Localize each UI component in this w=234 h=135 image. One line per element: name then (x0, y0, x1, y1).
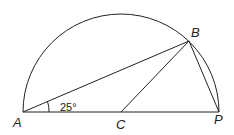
point-label-p: P (214, 112, 223, 127)
angle-label: 25° (60, 101, 77, 113)
point-label-c: C (116, 117, 126, 132)
semicircle-arc (23, 14, 219, 112)
point-label-a: A (12, 115, 22, 130)
segment-ab (23, 41, 189, 112)
geometry-diagram: 25° A C P B (0, 0, 234, 135)
angle-arc-a (48, 102, 50, 112)
segment-bp (189, 41, 219, 112)
point-label-b: B (191, 25, 200, 40)
segment-cb (121, 41, 189, 112)
